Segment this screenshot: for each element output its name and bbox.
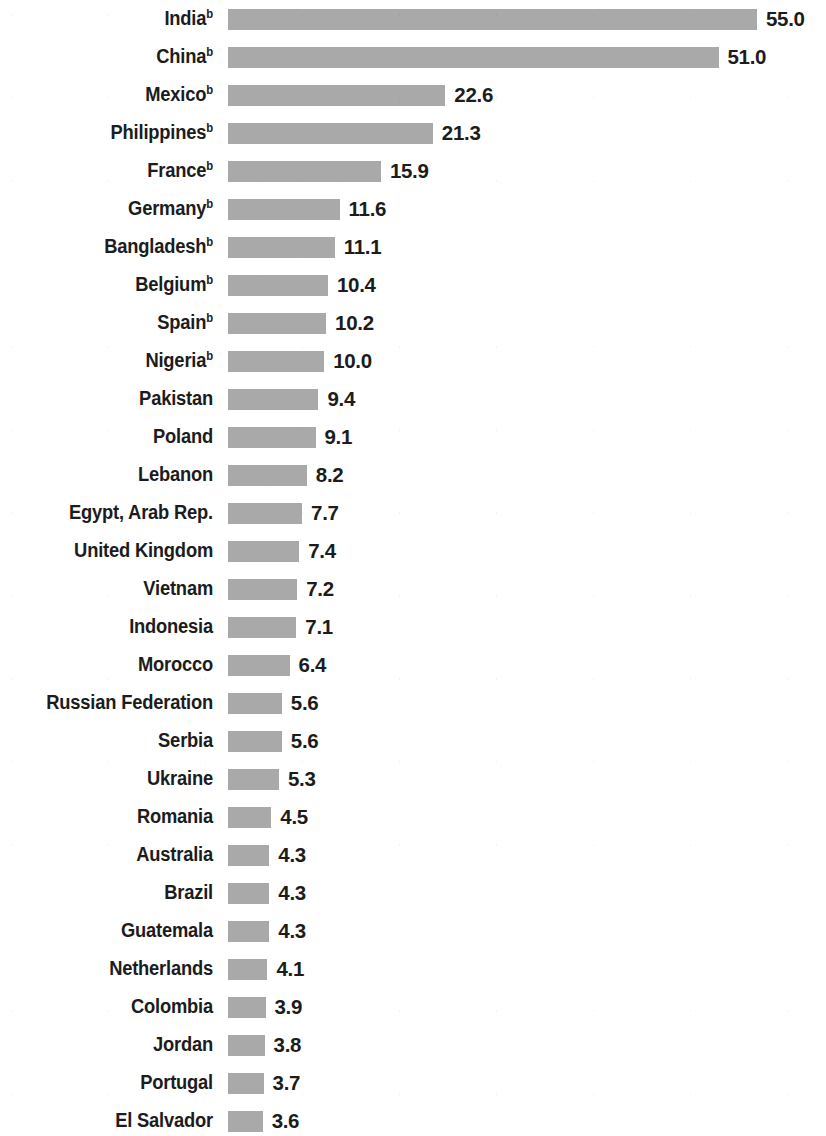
category-label: Chinab: [13, 47, 213, 67]
bar-value-label: 4.1: [276, 959, 304, 980]
bar-zone: 6.4: [213, 646, 826, 684]
bar-value-label: 3.7: [273, 1073, 301, 1094]
bar-zone: 4.5: [213, 798, 826, 836]
bar-zone: 8.2: [213, 456, 826, 494]
bar: [228, 427, 316, 448]
category-label: Guatemala: [13, 921, 213, 941]
category-label: Indonesia: [13, 617, 213, 637]
bar-row: Morocco6.4: [0, 646, 826, 684]
bar: [228, 617, 296, 638]
category-label: Indiab: [13, 9, 213, 29]
bar-value-label: 4.3: [278, 845, 306, 866]
bar-zone: 3.7: [213, 1064, 826, 1102]
bar-row: Serbia5.6: [0, 722, 826, 760]
category-label: Vietnam: [13, 579, 213, 599]
category-label: Franceb: [13, 161, 213, 181]
footnote-marker: b: [206, 121, 213, 135]
bar-value-label: 51.0: [728, 47, 767, 68]
chart-rows: Indiab55.0Chinab51.0Mexicob22.6Philippin…: [0, 0, 826, 1136]
category-label: Russian Federation: [13, 693, 213, 713]
bar-row: Franceb15.9: [0, 152, 826, 190]
bar-row: Guatemala4.3: [0, 912, 826, 950]
bar-zone: 3.8: [213, 1026, 826, 1064]
category-label: Philippinesb: [13, 123, 213, 143]
category-label: United Kingdom: [13, 541, 213, 561]
bar-zone: 15.9: [213, 152, 826, 190]
bar: [228, 807, 271, 828]
bar-row: Chinab51.0: [0, 38, 826, 76]
bar-zone: 7.2: [213, 570, 826, 608]
footnote-marker: b: [206, 349, 213, 363]
category-label: Ukraine: [13, 769, 213, 789]
bar-value-label: 6.4: [299, 655, 327, 676]
bar-row: Ukraine5.3: [0, 760, 826, 798]
bar-value-label: 22.6: [454, 85, 493, 106]
bar-row: Romania4.5: [0, 798, 826, 836]
category-label: Poland: [13, 427, 213, 447]
bar-row: Portugal3.7: [0, 1064, 826, 1102]
bar-row: Germanyb11.6: [0, 190, 826, 228]
bar-zone: 4.3: [213, 912, 826, 950]
bar-zone: 5.3: [213, 760, 826, 798]
category-label: Brazil: [13, 883, 213, 903]
bar-value-label: 7.7: [311, 503, 339, 524]
category-label: Pakistan: [13, 389, 213, 409]
category-label: El Salvador: [13, 1111, 213, 1131]
category-label: Romania: [13, 807, 213, 827]
bar-zone: 3.9: [213, 988, 826, 1026]
bar-value-label: 9.4: [327, 389, 355, 410]
bar-value-label: 3.6: [272, 1111, 300, 1132]
bar: [228, 1111, 263, 1132]
bar-zone: 4.3: [213, 874, 826, 912]
bar-zone: 4.1: [213, 950, 826, 988]
footnote-marker: b: [206, 159, 213, 173]
bar-value-label: 7.4: [308, 541, 336, 562]
bar: [228, 123, 433, 144]
bar: [228, 579, 297, 600]
bar: [228, 655, 290, 676]
bar: [228, 997, 266, 1018]
bar: [228, 161, 381, 182]
bar-value-label: 7.1: [305, 617, 333, 638]
bar-row: Bangladeshb11.1: [0, 228, 826, 266]
category-label: Nigeriab: [13, 351, 213, 371]
bar-row: Australia4.3: [0, 836, 826, 874]
bar-row: Netherlands4.1: [0, 950, 826, 988]
bar-row: Mexicob22.6: [0, 76, 826, 114]
bar: [228, 199, 340, 220]
bar-value-label: 55.0: [766, 9, 805, 30]
bar-value-label: 10.4: [337, 275, 376, 296]
bar-row: Lebanon8.2: [0, 456, 826, 494]
footnote-marker: b: [206, 45, 213, 59]
bar: [228, 85, 445, 106]
footnote-marker: b: [206, 311, 213, 325]
bar: [228, 389, 318, 410]
bar-value-label: 15.9: [390, 161, 429, 182]
bar: [228, 47, 719, 68]
bar: [228, 351, 324, 372]
bar-zone: 22.6: [213, 76, 826, 114]
bar-value-label: 11.6: [349, 199, 387, 220]
bar-value-label: 11.1: [344, 237, 382, 258]
bar: [228, 731, 282, 752]
bar: [228, 237, 335, 258]
bar: [228, 275, 328, 296]
footnote-marker: b: [206, 7, 213, 21]
bar: [228, 503, 302, 524]
bar-zone: 11.1: [213, 228, 826, 266]
bar-value-label: 9.1: [325, 427, 353, 448]
bar-value-label: 5.6: [291, 731, 319, 752]
footnote-marker: b: [206, 83, 213, 97]
footnote-marker: b: [206, 197, 213, 211]
bar: [228, 465, 307, 486]
bar-row: El Salvador3.6: [0, 1102, 826, 1136]
bar-value-label: 4.3: [278, 883, 306, 904]
bar-zone: 5.6: [213, 684, 826, 722]
bar-row: Russian Federation5.6: [0, 684, 826, 722]
bar-row: Egypt, Arab Rep.7.7: [0, 494, 826, 532]
bar-zone: 51.0: [213, 38, 826, 76]
bar-zone: 11.6: [213, 190, 826, 228]
bar: [228, 921, 269, 942]
bar-zone: 10.2: [213, 304, 826, 342]
bar-zone: 9.1: [213, 418, 826, 456]
